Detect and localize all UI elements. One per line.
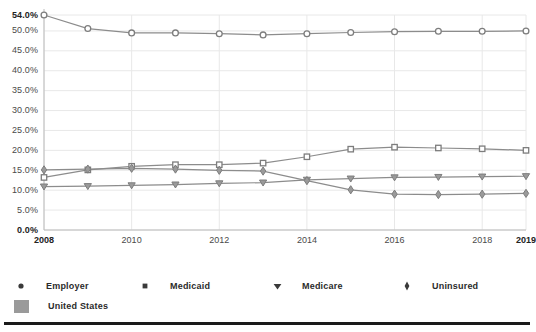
legend-label-employer: Employer [46, 281, 89, 291]
circle-marker-icon [14, 279, 28, 293]
diamond-marker-icon [400, 279, 414, 293]
chart-legend: Employer Medicaid Medicare [0, 276, 534, 322]
legend-item-united-states[interactable]: United States [12, 296, 108, 316]
x-tick-label: 2014 [297, 236, 317, 245]
legend-item-medicare[interactable]: Medicare [270, 276, 343, 296]
x-tick-label: 2012 [209, 236, 229, 245]
square-marker-icon [138, 279, 152, 293]
legend-item-medicaid[interactable]: Medicaid [138, 276, 210, 296]
legend-label-united-states: United States [48, 301, 108, 311]
x-tick-label: 2018 [472, 236, 492, 245]
x-tick-label: 2008 [34, 236, 54, 245]
x-tick-label: 2016 [385, 236, 405, 245]
legend-item-uninsured[interactable]: Uninsured [400, 276, 478, 296]
triangle-down-marker-icon [270, 279, 284, 293]
legend-row-primary: Employer Medicaid Medicare [0, 276, 534, 296]
footer-rule [4, 322, 530, 325]
legend-item-employer[interactable]: Employer [14, 276, 89, 296]
united-states-color-swatch [14, 300, 29, 313]
x-axis-tick-labels: 2008201020122014201620182019 [0, 0, 534, 272]
legend-label-medicaid: Medicaid [170, 281, 210, 291]
x-tick-label: 2019 [516, 236, 536, 245]
legend-label-medicare: Medicare [302, 281, 343, 291]
legend-row-secondary: United States [0, 296, 534, 316]
legend-label-uninsured: Uninsured [432, 281, 478, 291]
swatch-marker-icon [12, 299, 30, 313]
x-tick-label: 2010 [122, 236, 142, 245]
plot-area: 0.0%5.0%10.0%15.0%20.0%25.0%30.0%35.0%40… [0, 0, 534, 272]
